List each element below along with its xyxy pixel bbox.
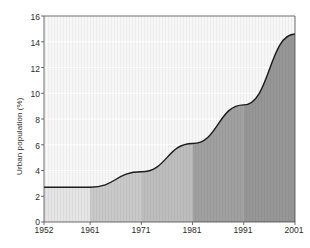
urban-population-area-chart: Urban population (%) 16 14 12 10 8 6 4 2… — [0, 0, 310, 248]
plot-area — [0, 0, 310, 248]
